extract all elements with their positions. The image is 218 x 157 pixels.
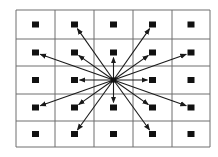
grid-node bbox=[188, 105, 195, 111]
arrow-to-neighbor bbox=[77, 29, 113, 80]
grid-node bbox=[32, 131, 39, 137]
grid-node bbox=[149, 50, 156, 56]
grid-node bbox=[71, 105, 78, 111]
grid-node bbox=[71, 50, 78, 56]
arrow-to-neighbor bbox=[114, 54, 187, 80]
arrow-to-neighbor bbox=[79, 80, 114, 105]
arrow-to-neighbor bbox=[114, 29, 150, 80]
grid-node bbox=[32, 22, 39, 28]
grid-node bbox=[188, 22, 195, 28]
grid-node bbox=[32, 105, 39, 111]
arrow-to-neighbor bbox=[114, 55, 149, 80]
grid-node bbox=[32, 50, 39, 56]
arrow-to-neighbor bbox=[79, 55, 114, 80]
neighborhood-grid-diagram bbox=[0, 0, 218, 157]
grid-node bbox=[110, 105, 117, 111]
grid-node bbox=[32, 77, 39, 83]
arrow-to-neighbor bbox=[40, 54, 113, 80]
grid-node bbox=[188, 131, 195, 137]
arrow-to-neighbor bbox=[77, 80, 113, 130]
grid-node bbox=[71, 77, 78, 83]
grid-node bbox=[149, 131, 156, 137]
grid-node bbox=[149, 77, 156, 83]
grid-node bbox=[188, 50, 195, 56]
grid-node bbox=[71, 131, 78, 137]
arrow-to-neighbor bbox=[114, 80, 149, 105]
grid-node bbox=[110, 50, 117, 56]
grid-node bbox=[110, 22, 117, 28]
center-node bbox=[111, 78, 117, 83]
grid-node bbox=[188, 77, 195, 83]
arrow-to-neighbor bbox=[114, 80, 150, 130]
arrow-to-neighbor bbox=[40, 80, 113, 106]
grid-node bbox=[110, 131, 117, 137]
grid-node bbox=[71, 22, 78, 28]
grid-node bbox=[149, 105, 156, 111]
grid-node bbox=[149, 22, 156, 28]
arrow-to-neighbor bbox=[114, 80, 187, 106]
